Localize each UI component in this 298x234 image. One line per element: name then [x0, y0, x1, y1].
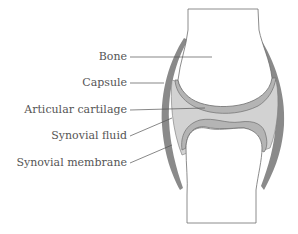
upper-bone	[178, 9, 272, 107]
lower-bone	[186, 128, 262, 223]
synovial-joint-diagram: Bone Capsule Articular cartilage Synovia…	[0, 0, 298, 234]
label-synovial-fluid: Synovial fluid	[51, 129, 127, 142]
label-capsule: Capsule	[82, 76, 127, 89]
label-bone: Bone	[99, 50, 127, 63]
leader-membrane	[130, 145, 172, 163]
joint-illustration	[0, 0, 298, 234]
label-synovial-membrane: Synovial membrane	[16, 156, 127, 169]
label-articular-cartilage: Articular cartilage	[24, 103, 127, 116]
